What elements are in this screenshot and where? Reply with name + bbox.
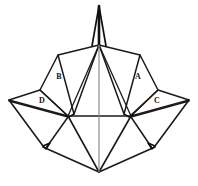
origami-diagram-figure: B A D C [0, 0, 198, 186]
label-b: B [56, 72, 62, 81]
label-a: A [135, 72, 141, 81]
label-c: C [154, 96, 160, 105]
label-d: D [39, 96, 45, 105]
diagram-canvas: B A D C [0, 0, 198, 186]
